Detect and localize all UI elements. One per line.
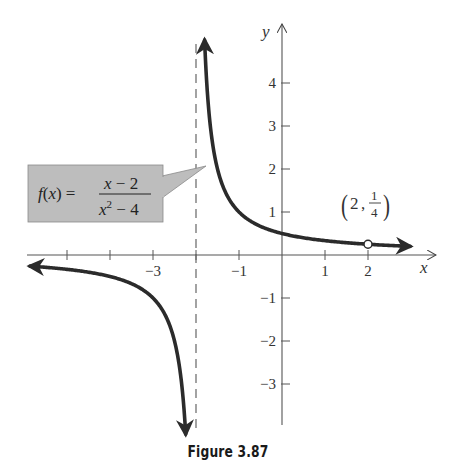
svg-text:,: , [361, 194, 365, 213]
x-tick-label: −3 [145, 263, 161, 279]
left-branch-curve [30, 266, 186, 434]
y-tick-label: 3 [269, 118, 277, 134]
hole-point [364, 240, 372, 248]
svg-text:1: 1 [371, 188, 378, 203]
y-tick-label: 4 [269, 75, 277, 91]
function-denominator: x2 − 4 [98, 198, 139, 219]
svg-text:4: 4 [371, 205, 378, 220]
hole-coordinate-label: ( 2 , 1 4 ) [341, 188, 390, 222]
y-tick-label: 1 [269, 204, 277, 220]
x-axis-label: x [419, 258, 428, 277]
svg-text:2: 2 [350, 194, 359, 213]
y-tick-label: −1 [260, 290, 276, 306]
function-callout: f(x) = x − 2 x2 − 4 [28, 165, 206, 222]
figure-caption: Figure 3.87 [41, 443, 416, 461]
right-branch-curve [205, 40, 411, 246]
y-tick-label: −3 [260, 376, 276, 392]
x-tick-label: 2 [364, 263, 372, 279]
svg-text:): ) [383, 188, 390, 222]
axes [27, 24, 436, 425]
tick-labels: −3−1124321−1−2−3 [145, 75, 372, 392]
ticks [67, 83, 368, 384]
x-tick-label: 1 [321, 263, 329, 279]
svg-text:(: ( [341, 188, 348, 222]
y-axis-label: y [260, 22, 270, 41]
curves [30, 40, 410, 434]
y-tick-label: 2 [269, 161, 277, 177]
x-tick-label: −1 [231, 263, 247, 279]
y-tick-label: −2 [260, 333, 276, 349]
function-numerator: x − 2 [103, 174, 138, 193]
function-graph: −3−1124321−1−2−3 x y ( 2 , 1 4 ) f(x) = … [0, 0, 457, 468]
function-lhs: f(x) = [38, 184, 75, 203]
